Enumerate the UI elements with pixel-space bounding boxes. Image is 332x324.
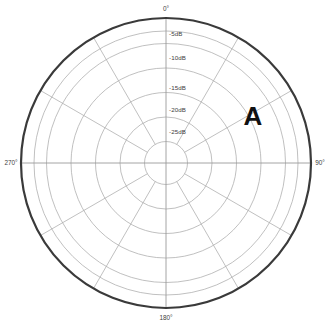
spoke-300deg [40, 91, 147, 153]
principal-axes-group [21, 18, 311, 308]
spoke-210deg [94, 182, 156, 289]
radial-tick-label-5: -25dB [169, 128, 186, 135]
radial-tick-label-4: -20dB [169, 106, 186, 113]
spoke-120deg [185, 174, 292, 236]
angle-label-180: 180° [159, 314, 173, 321]
spoke-330deg [94, 37, 156, 144]
spoke-60deg [185, 91, 292, 153]
annotation-label-a: A [244, 101, 263, 131]
angle-label-270: 270° [4, 159, 18, 166]
radial-tick-label-2: -10dB [169, 54, 186, 61]
radial-tick-label-3: -15dB [169, 84, 186, 91]
spoke-240deg [40, 174, 147, 236]
radial-tick-label-1: -5dB [169, 30, 182, 37]
angle-label-90: 90° [315, 159, 325, 166]
angle-label-0: 0° [163, 5, 170, 12]
polar-plot-container: -5dB -10dB -15dB -20dB -25dB 0° 90° 180°… [0, 0, 332, 324]
radial-tick-labels-group: -5dB -10dB -15dB -20dB -25dB [169, 30, 186, 136]
polar-plot-svg: -5dB -10dB -15dB -20dB -25dB 0° 90° 180°… [0, 0, 332, 324]
spoke-150deg [177, 182, 239, 289]
